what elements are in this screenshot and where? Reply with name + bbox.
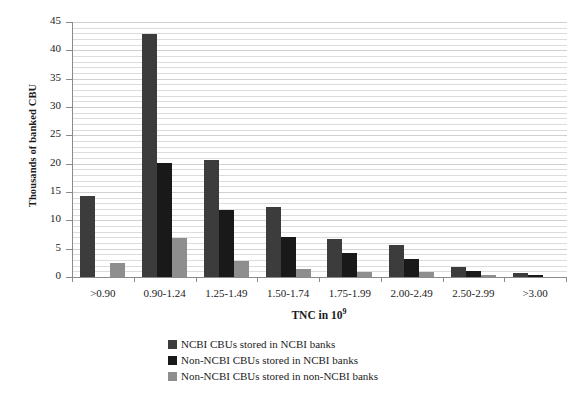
- x-axis-tick: [134, 277, 135, 282]
- x-axis-tick: [443, 277, 444, 282]
- legend-swatch-icon: [168, 356, 177, 365]
- bar: [528, 275, 543, 277]
- bar-group: [72, 22, 134, 277]
- x-axis-tick: [381, 277, 382, 282]
- bar: [327, 239, 342, 277]
- bar: [296, 269, 311, 278]
- bar-group: [196, 22, 258, 277]
- legend-item[interactable]: Non-NCBI CBUs stored in NCBI banks: [168, 352, 378, 368]
- bar-group: [319, 22, 381, 277]
- x-axis-tick-label: >3.00: [504, 287, 566, 299]
- y-axis-tick-label: 35: [21, 71, 61, 83]
- legend-label: NCBI CBUs stored in NCBI banks: [181, 338, 335, 350]
- bar: [419, 272, 434, 277]
- y-axis-tick-label: 45: [21, 14, 61, 26]
- bar: [481, 275, 496, 277]
- legend-item[interactable]: Non-NCBI CBUs stored in non-NCBI banks: [168, 368, 378, 384]
- bar: [219, 210, 234, 277]
- legend-item[interactable]: NCBI CBUs stored in NCBI banks: [168, 336, 378, 352]
- x-axis-tick: [72, 277, 73, 282]
- bar: [80, 196, 95, 277]
- y-axis-tick-label: 5: [21, 241, 61, 253]
- x-axis-tick: [257, 277, 258, 282]
- bar-group: [504, 22, 566, 277]
- bar: [513, 273, 528, 277]
- y-axis-tick-label: 25: [21, 127, 61, 139]
- bar: [357, 272, 372, 277]
- bar: [451, 267, 466, 277]
- x-axis-tick-label: >0.90: [72, 287, 134, 299]
- x-axis-tick: [319, 277, 320, 282]
- bar: [234, 261, 249, 277]
- x-axis-tick-label: 0.90-1.24: [134, 287, 196, 299]
- x-axis-tick: [566, 277, 567, 282]
- bar: [342, 253, 357, 277]
- y-axis-tick-label: 15: [21, 184, 61, 196]
- x-axis-tick-label: 2.50-2.99: [443, 287, 505, 299]
- x-axis-tick-label: 1.75-1.99: [319, 287, 381, 299]
- bar: [142, 34, 157, 277]
- x-axis-title-text: TNC in 10: [291, 309, 342, 321]
- y-axis-tick-label: 20: [21, 156, 61, 168]
- bar-group: [381, 22, 443, 277]
- bar: [157, 163, 172, 277]
- bar-groups: [72, 22, 566, 277]
- bar: [466, 271, 481, 277]
- bar: [404, 259, 419, 277]
- legend-label: Non-NCBI CBUs stored in NCBI banks: [181, 354, 358, 366]
- y-axis-tick-label: 0: [21, 269, 61, 281]
- bar: [110, 263, 125, 277]
- x-axis-tick: [504, 277, 505, 282]
- legend-swatch-icon: [168, 340, 177, 349]
- x-axis-tick-labels: >0.900.90-1.241.25-1.491.50-1.741.75-1.9…: [72, 287, 566, 299]
- x-axis-tick-label: 1.25-1.49: [196, 287, 258, 299]
- y-axis-tick-label: 40: [21, 42, 61, 54]
- bar: [204, 160, 219, 277]
- chart-legend: NCBI CBUs stored in NCBI banksNon-NCBI C…: [168, 336, 378, 384]
- x-axis-title-exponent: 9: [343, 307, 347, 316]
- bar-chart-figure: Thousands of banked CBU 0510152025303540…: [0, 0, 580, 405]
- x-axis-tick: [196, 277, 197, 282]
- x-axis-tick-label: 2.00-2.49: [381, 287, 443, 299]
- bar-group: [443, 22, 505, 277]
- y-axis-tick-label: 30: [21, 99, 61, 111]
- legend-label: Non-NCBI CBUs stored in non-NCBI banks: [181, 370, 378, 382]
- legend-swatch-icon: [168, 372, 177, 381]
- bar: [389, 245, 404, 277]
- bar: [172, 238, 187, 277]
- bar-group: [257, 22, 319, 277]
- bar-group: [134, 22, 196, 277]
- x-axis-title: TNC in 109: [72, 307, 566, 321]
- bar: [266, 207, 281, 277]
- y-axis-tick-label: 10: [21, 212, 61, 224]
- x-axis-tick-label: 1.50-1.74: [257, 287, 319, 299]
- bar: [281, 237, 296, 277]
